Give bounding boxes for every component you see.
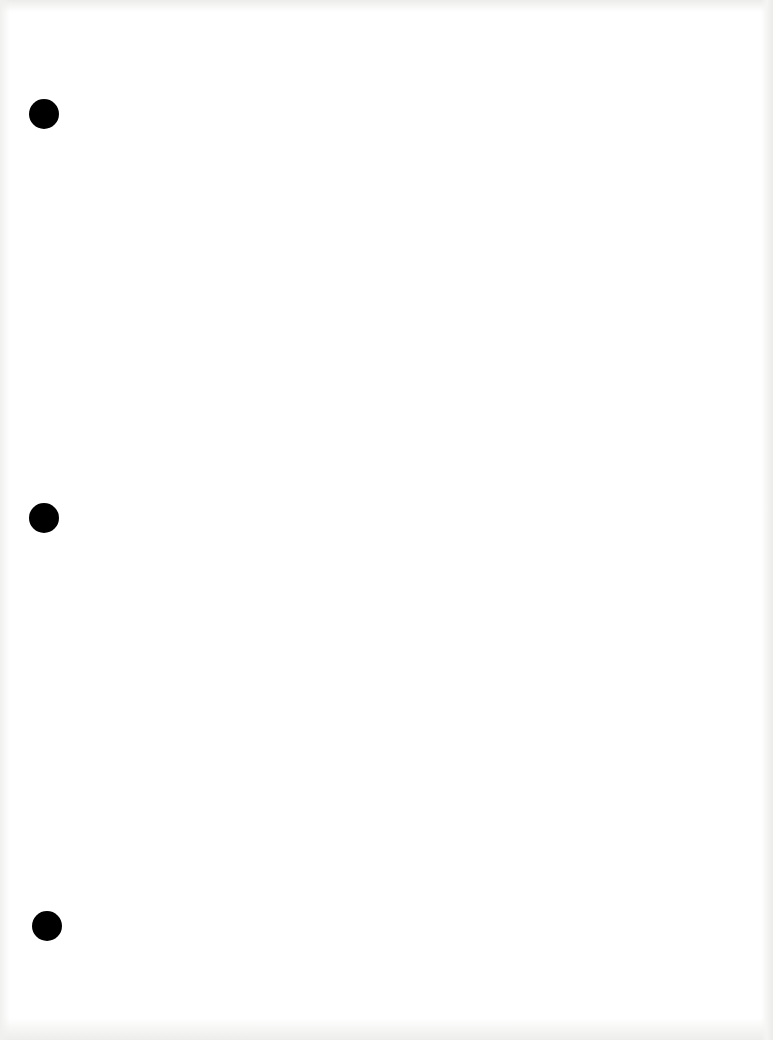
scanned-page: [0, 0, 773, 1040]
punch-hole-bottom: [32, 911, 62, 941]
punch-hole-middle: [29, 503, 59, 533]
scan-edge-right: [761, 0, 773, 1040]
punch-hole-top: [29, 99, 59, 129]
scan-edge-bottom: [0, 1018, 773, 1040]
scan-edge-left: [0, 0, 10, 1040]
scan-edge-top: [0, 0, 773, 12]
